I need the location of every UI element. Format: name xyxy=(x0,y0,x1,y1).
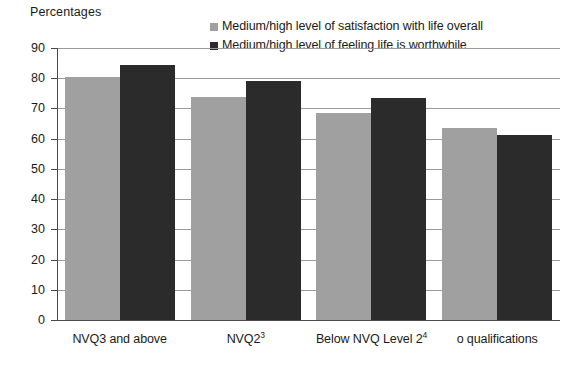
legend-item-label: Medium/high level of satisfaction with l… xyxy=(222,20,483,33)
bar-series-1-category-1 xyxy=(65,77,120,320)
y-axis-tick-label: 40 xyxy=(15,193,45,205)
y-axis-tick xyxy=(51,199,57,200)
y-axis-tick-label: 50 xyxy=(15,163,45,175)
bar-series-2-category-2 xyxy=(246,81,301,320)
plot-area xyxy=(57,48,560,320)
y-axis-tick xyxy=(51,169,57,170)
bar-series-1-category-3 xyxy=(316,113,371,320)
y-axis-tick xyxy=(51,290,57,291)
x-axis-category-text: NVQ2 xyxy=(227,332,261,346)
y-axis-tick-label: 0 xyxy=(15,314,45,326)
y-axis-tick-label: 90 xyxy=(15,42,45,54)
x-axis-category-label: Below NVQ Level 24 xyxy=(316,332,427,346)
y-axis-tick-label: 60 xyxy=(15,133,45,145)
x-axis-category-footnote: 4 xyxy=(423,330,428,340)
legend-swatch-icon xyxy=(210,23,218,31)
bar-series-2-category-1 xyxy=(120,65,175,320)
bar-series-2-category-3 xyxy=(371,98,426,320)
x-axis-category-label: NVQ23 xyxy=(227,332,265,346)
gridline xyxy=(57,48,560,49)
y-axis-tick-label: 20 xyxy=(15,254,45,266)
y-axis-tick xyxy=(51,260,57,261)
bar-series-1-category-4 xyxy=(442,128,497,320)
legend-item: Medium/high level of satisfaction with l… xyxy=(210,17,580,36)
x-axis-category-text: Below NVQ Level 2 xyxy=(316,332,423,346)
bar-series-1-category-2 xyxy=(191,97,246,320)
bar-series-2-category-4 xyxy=(497,135,552,320)
y-axis-tick xyxy=(51,108,57,109)
y-axis-tick xyxy=(51,78,57,79)
x-axis-category-label: NVQ3 and above xyxy=(72,332,167,346)
y-axis-tick xyxy=(51,48,57,49)
y-axis-tick-label: 10 xyxy=(15,284,45,296)
x-axis-line xyxy=(57,320,560,321)
y-axis-title: Percentages xyxy=(30,5,101,19)
y-axis-tick xyxy=(51,320,57,321)
y-axis-tick xyxy=(51,229,57,230)
x-axis-category-footnote: 3 xyxy=(260,330,265,340)
x-axis-category-text: NVQ3 and above xyxy=(72,332,167,346)
y-axis-tick-label: 30 xyxy=(15,223,45,235)
x-axis-category-label: o qualifications xyxy=(457,332,538,346)
x-axis-category-text: o qualifications xyxy=(457,332,538,346)
y-axis-tick xyxy=(51,139,57,140)
y-axis-line xyxy=(57,48,58,320)
y-axis-tick-label: 80 xyxy=(15,72,45,84)
bar-chart: Percentages Medium/high level of satisfa… xyxy=(0,0,581,370)
y-axis-tick-label: 70 xyxy=(15,102,45,114)
